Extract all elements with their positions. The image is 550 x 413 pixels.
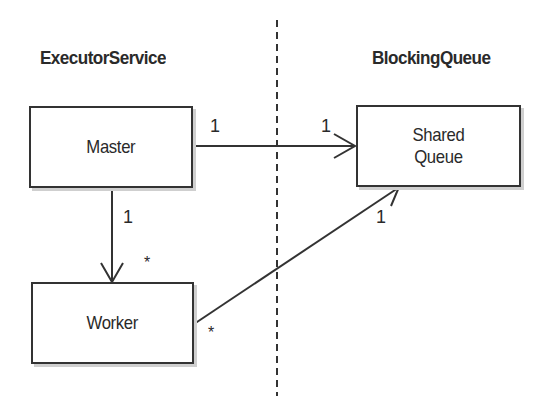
class-label-shared-queue: Shared Queue — [413, 124, 465, 168]
package-heading-executor-service: ExecutorService — [40, 47, 166, 69]
multiplicity-master-worker-target: * — [144, 254, 150, 272]
multiplicity-worker-queue-source: * — [208, 324, 214, 342]
multiplicity-master-worker-source: 1 — [123, 208, 133, 226]
edge-master-to-worker — [101, 187, 123, 282]
multiplicity-master-queue-source: 1 — [210, 117, 220, 135]
diagram-canvas: ExecutorService BlockingQueue Master Wor… — [0, 0, 550, 413]
class-label-worker: Worker — [87, 312, 138, 334]
package-heading-blocking-queue: BlockingQueue — [372, 47, 490, 69]
edge-master-to-shared-queue — [192, 134, 355, 158]
class-box-shared-queue: Shared Queue — [356, 105, 521, 187]
class-box-worker: Worker — [31, 282, 194, 364]
multiplicity-worker-queue-target: 1 — [376, 208, 386, 226]
class-box-master: Master — [29, 106, 193, 188]
class-label-master: Master — [86, 136, 135, 158]
multiplicity-master-queue-target: 1 — [321, 117, 331, 135]
edge-worker-to-shared-queue — [194, 187, 399, 324]
